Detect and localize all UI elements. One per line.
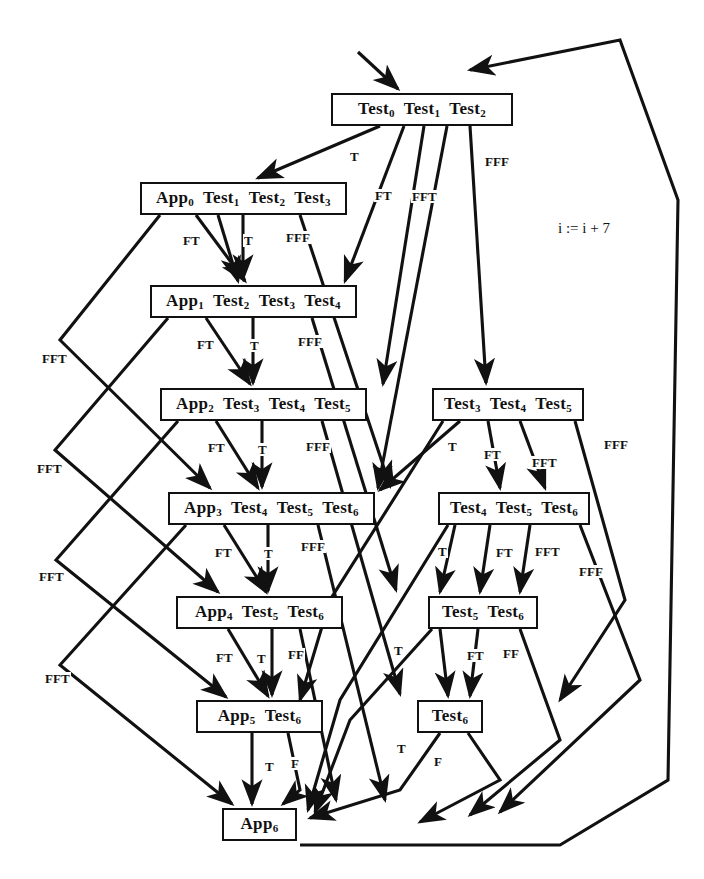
edge-label: FT bbox=[374, 189, 393, 202]
edge-label: T bbox=[263, 547, 274, 560]
node-app1[interactable]: App1Test2Test3Test4 bbox=[150, 285, 357, 318]
node-token: Test6 bbox=[265, 706, 302, 726]
edge-label: T bbox=[393, 644, 404, 657]
edge-label: FT bbox=[215, 651, 234, 664]
edge-label: FFF bbox=[285, 231, 311, 244]
node-token: Test1 bbox=[203, 188, 240, 208]
edge-label: FT bbox=[207, 441, 226, 454]
edge-label: FT bbox=[495, 546, 514, 559]
edge-label: T bbox=[447, 440, 458, 453]
node-token: Test5 bbox=[496, 498, 533, 518]
node-app5[interactable]: App5Test6 bbox=[196, 700, 323, 733]
edge-label: FT bbox=[483, 448, 502, 461]
node-app4[interactable]: App4Test5Test6 bbox=[176, 596, 343, 629]
diagram-canvas: Test0Test1Test2 App0Test1Test2Test3 App1… bbox=[0, 0, 704, 879]
node-test3-test4-test5[interactable]: Test3Test4Test5 bbox=[432, 388, 584, 421]
edge-n0-n1 bbox=[258, 126, 380, 178]
node-token: Test6 bbox=[432, 706, 469, 726]
edge-label: FFF bbox=[297, 335, 323, 348]
edge-label: T bbox=[243, 234, 254, 247]
node-token: Test5 bbox=[314, 394, 351, 414]
node-token: Test5 bbox=[277, 498, 314, 518]
edge-label: T bbox=[256, 652, 267, 665]
edge-label: T bbox=[249, 339, 260, 352]
node-app6[interactable]: App6 bbox=[222, 808, 297, 841]
node-token: Test4 bbox=[450, 498, 487, 518]
edge-label: FFF bbox=[305, 440, 331, 453]
edge-label: FT bbox=[196, 338, 215, 351]
edge-entry bbox=[358, 52, 398, 89]
edge-label: FFT bbox=[41, 352, 68, 365]
node-token: Test6 bbox=[287, 602, 324, 622]
node-token: Test4 bbox=[490, 394, 527, 414]
node-token: Test6 bbox=[488, 602, 525, 622]
node-token: Test0 bbox=[358, 99, 395, 119]
node-test4-test5-test6[interactable]: Test4Test5Test6 bbox=[438, 492, 590, 525]
node-token: App5 bbox=[218, 706, 256, 726]
edge-label: FT bbox=[182, 234, 201, 247]
node-token: Test4 bbox=[269, 394, 306, 414]
edge-label: FFT bbox=[411, 190, 438, 203]
edge-label: T bbox=[437, 545, 448, 558]
node-token: App4 bbox=[195, 602, 233, 622]
node-token: Test5 bbox=[535, 394, 572, 414]
edge-label: FFT bbox=[531, 456, 558, 469]
node-token: App2 bbox=[176, 394, 214, 414]
edge-label: FFF bbox=[603, 438, 629, 451]
node-token: Test2 bbox=[449, 99, 486, 119]
edge-label: FF bbox=[502, 647, 520, 660]
edge-label: FT bbox=[214, 546, 233, 559]
node-token: Test1 bbox=[404, 99, 441, 119]
node-app3[interactable]: App3Test4Test5Test6 bbox=[168, 492, 375, 525]
node-token: Test2 bbox=[249, 188, 286, 208]
edge-label: T bbox=[349, 150, 360, 163]
node-token: App0 bbox=[156, 188, 194, 208]
edge-label: FT bbox=[466, 649, 485, 662]
edge-label: F bbox=[433, 755, 443, 768]
node-token: Test6 bbox=[541, 498, 578, 518]
edge-layer bbox=[0, 0, 704, 879]
node-token: Test6 bbox=[322, 498, 359, 518]
edge-label: FFT bbox=[44, 672, 71, 685]
node-token: Test3 bbox=[444, 394, 481, 414]
annotation-increment: i := i + 7 bbox=[558, 220, 610, 237]
edge-label: FFF bbox=[300, 540, 326, 553]
edge-label: T bbox=[264, 760, 275, 773]
edge-label: FFT bbox=[38, 570, 65, 583]
node-token: Test3 bbox=[259, 291, 296, 311]
node-test0-test1-test2[interactable]: Test0Test1Test2 bbox=[331, 93, 513, 126]
node-token: App1 bbox=[166, 291, 204, 311]
edge-label: T bbox=[257, 443, 268, 456]
node-token: Test5 bbox=[442, 602, 479, 622]
node-token: Test3 bbox=[294, 188, 331, 208]
node-test5-test6[interactable]: Test5Test6 bbox=[428, 596, 538, 629]
edge-label: T bbox=[396, 742, 407, 755]
node-app0[interactable]: App0Test1Test2Test3 bbox=[140, 182, 347, 215]
edge-label: FFF bbox=[578, 565, 604, 578]
edge-label: FFF bbox=[484, 155, 510, 168]
node-token: Test5 bbox=[242, 602, 279, 622]
node-token: Test4 bbox=[304, 291, 341, 311]
node-token: App3 bbox=[184, 498, 222, 518]
edge-label: FFT bbox=[36, 462, 63, 475]
node-token: App6 bbox=[241, 814, 279, 834]
edge-label: FFT bbox=[534, 545, 561, 558]
edge-n1-fft bbox=[60, 215, 210, 488]
node-test6[interactable]: Test6 bbox=[417, 700, 483, 733]
node-token: Test3 bbox=[223, 394, 260, 414]
node-token: Test2 bbox=[213, 291, 250, 311]
node-app2[interactable]: App2Test3Test4Test5 bbox=[160, 388, 367, 421]
node-token: Test4 bbox=[231, 498, 268, 518]
edge-label: FF bbox=[287, 648, 305, 661]
edge-label: F bbox=[290, 757, 300, 770]
